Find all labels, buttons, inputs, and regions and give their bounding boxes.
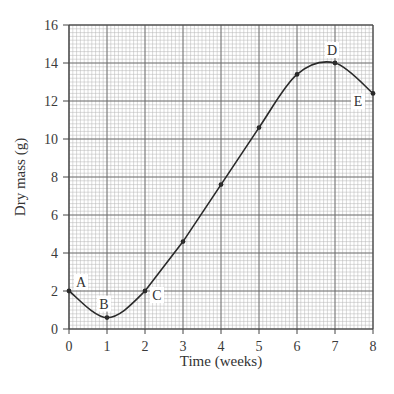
data-point <box>257 125 262 130</box>
x-tick-label: 4 <box>218 339 225 354</box>
data-point <box>105 315 110 320</box>
dry-mass-chart: 012345678 0246810121416 ABCDE Time (week… <box>0 0 394 394</box>
data-point <box>333 61 338 66</box>
x-axis-ticks: 012345678 <box>66 329 377 354</box>
data-point <box>67 289 72 294</box>
y-tick-label: 6 <box>51 208 58 223</box>
x-tick-label: 1 <box>104 339 111 354</box>
x-tick-label: 8 <box>370 339 377 354</box>
x-tick-label: 3 <box>180 339 187 354</box>
point-label-e: E <box>354 94 363 109</box>
y-axis-label: Dry mass (g) <box>12 138 29 216</box>
x-tick-label: 5 <box>256 339 263 354</box>
point-label-c: C <box>152 288 161 303</box>
y-tick-label: 10 <box>44 132 58 147</box>
y-tick-label: 2 <box>51 284 58 299</box>
y-axis-ticks: 0246810121416 <box>44 18 69 337</box>
x-tick-label: 2 <box>142 339 149 354</box>
y-tick-label: 8 <box>51 170 58 185</box>
data-point <box>143 289 148 294</box>
y-tick-label: 4 <box>51 246 58 261</box>
x-tick-label: 6 <box>294 339 301 354</box>
point-label-d: D <box>327 43 337 58</box>
y-tick-label: 14 <box>44 56 58 71</box>
data-point <box>181 239 186 244</box>
y-tick-label: 0 <box>51 322 58 337</box>
y-tick-label: 12 <box>44 94 58 109</box>
x-tick-label: 0 <box>66 339 73 354</box>
x-tick-label: 7 <box>332 339 339 354</box>
data-point <box>219 182 224 187</box>
y-tick-label: 16 <box>44 18 58 33</box>
point-label-b: B <box>99 297 108 312</box>
x-axis-label: Time (weeks) <box>180 353 262 370</box>
point-label-a: A <box>76 275 87 290</box>
data-point <box>295 72 300 77</box>
data-point <box>371 91 376 96</box>
